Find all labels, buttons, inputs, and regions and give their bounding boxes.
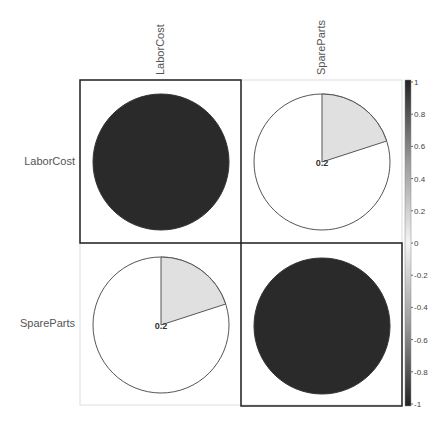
row-label-1: SpareParts xyxy=(20,317,76,329)
col-label-1: SpareParts xyxy=(315,19,327,75)
correlation-chart: LaborCost SpareParts LaborCost SparePart… xyxy=(0,0,444,426)
cell-laborcost-spareparts: 0.2 xyxy=(254,94,390,230)
colorbar-tick-label: -0.4 xyxy=(414,303,428,312)
cell-spareparts-laborcost: 0.2 xyxy=(93,257,229,393)
cell-value: 0.2 xyxy=(316,158,329,168)
colorbar-tick-label: -0.2 xyxy=(414,271,428,280)
col-label-0: LaborCost xyxy=(154,24,166,75)
colorbar-tick-label: -0.6 xyxy=(414,336,428,345)
colorbar-tick-label: 0 xyxy=(414,239,419,248)
colorbar: 10.80.60.40.20-0.2-0.4-0.6-0.8-1 xyxy=(405,78,428,409)
colorbar-tick-label: 1 xyxy=(414,78,419,87)
cell-value: 0.2 xyxy=(155,321,168,331)
cell-laborcost-laborcost xyxy=(93,94,229,230)
colorbar-tick-label: 0.4 xyxy=(414,175,426,184)
colorbar-tick-label: -1 xyxy=(414,400,422,409)
colorbar-tick-label: 0.2 xyxy=(414,207,426,216)
cell-spareparts-spareparts xyxy=(254,258,390,394)
colorbar-tick-label: -0.8 xyxy=(414,368,428,377)
colorbar-tick-label: 0.6 xyxy=(414,142,426,151)
row-label-0: LaborCost xyxy=(24,155,75,167)
colorbar-tick-label: 0.8 xyxy=(414,110,426,119)
